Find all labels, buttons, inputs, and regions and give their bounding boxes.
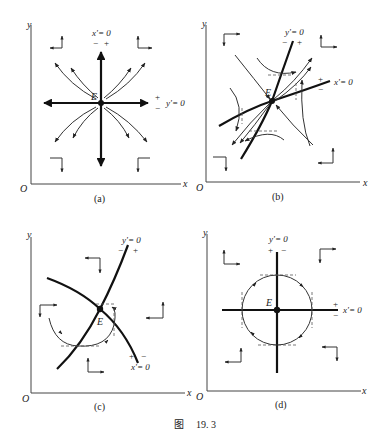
panel-a: y x O (a) E x'= 0 − + y'= 0 + −	[20, 19, 188, 205]
equilibrium-point	[97, 306, 103, 312]
nullcline-1-sign-right: +	[297, 37, 302, 47]
nullcline-2-label: y'= 0	[165, 98, 185, 108]
y-axis-label: y	[26, 19, 32, 30]
panel-label: (c)	[94, 401, 105, 413]
equilibrium-point	[274, 307, 280, 313]
nullcline-2-sign-right: −	[141, 351, 146, 361]
origin-label: O	[196, 182, 203, 193]
figure-caption-number: 19. 3	[196, 419, 216, 430]
nullcline-2-label: x'= 0	[333, 77, 353, 87]
equilibrium-label: E	[96, 316, 103, 327]
panel-d: y x O (d) E y'= 0 + − x'= 0 + −	[196, 227, 367, 411]
nullcline-2-sign-left: +	[129, 351, 134, 361]
origin-label: O	[196, 391, 203, 402]
phase-diagram-figure: y x O (a) E x'= 0 − + y'= 0 + −	[0, 0, 386, 442]
nullcline-1-sign-left: −	[118, 245, 123, 255]
nullcline-1-sign-left: −	[282, 37, 287, 47]
nullcline-1-sign-right: +	[133, 245, 138, 255]
nullcline-2-sign-top: +	[318, 74, 323, 84]
nullcline-1-label: y'= 0	[284, 27, 304, 37]
nullcline-2-sign-bottom: −	[333, 310, 338, 320]
nullcline-2-sign-top: +	[155, 92, 160, 102]
equilibrium-point	[98, 100, 104, 106]
nullcline-1-label: y'= 0	[121, 235, 141, 245]
panel-label: (b)	[272, 191, 284, 203]
nullcline-2-label: x'= 0	[130, 362, 150, 372]
nullcline-x-prime	[47, 278, 138, 363]
nullcline-y-prime	[57, 245, 128, 369]
nullcline-1-label: y'= 0	[268, 234, 288, 244]
nullcline-1-sign-left: −	[93, 38, 98, 48]
nullcline-1-sign-left: +	[268, 245, 273, 255]
nullcline-y-prime	[241, 41, 293, 159]
y-axis-label: y	[201, 18, 207, 29]
panel-label: (a)	[94, 193, 105, 205]
direction-arrows	[213, 34, 337, 171]
panel-label: (d)	[275, 399, 287, 411]
x-axis-label: x	[361, 385, 367, 396]
x-axis-label: x	[362, 177, 368, 188]
figure-caption-prefix: 图	[174, 419, 184, 430]
x-axis-label: x	[182, 178, 188, 189]
nullcline-2-label: x'= 0	[342, 305, 362, 315]
nullcline-1-label: x'= 0	[91, 28, 111, 38]
nullcline-2-sign-top: +	[333, 299, 338, 309]
origin-label: O	[20, 183, 27, 194]
y-axis-label: y	[26, 229, 32, 240]
nullcline-2-sign-bottom: −	[155, 103, 160, 113]
nullcline-1-sign-right: −	[281, 245, 286, 255]
panel-c: y x O (c) E y'= 0 − + x'= 0 + −	[22, 229, 192, 413]
nullcline-x-prime	[219, 81, 330, 126]
x-axis-label: x	[186, 387, 192, 398]
nullcline-2-sign-bottom: −	[318, 84, 323, 94]
equilibrium-label: E	[265, 297, 272, 308]
origin-label: O	[22, 393, 29, 404]
nullcline-1-sign-right: +	[104, 38, 109, 48]
panel-b: y x O (b) E y'= 0 − + x'= 0 + −	[196, 18, 368, 203]
y-axis-label: y	[202, 227, 208, 238]
